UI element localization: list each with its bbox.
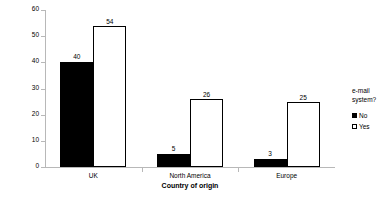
- y-tick-mark: [41, 141, 45, 142]
- legend-item[interactable]: No: [352, 111, 387, 120]
- y-tick-label: 50: [32, 31, 39, 38]
- y-tick: 10: [45, 141, 49, 142]
- bar-group: 325: [254, 10, 320, 167]
- bar-value-label: 25: [300, 94, 307, 101]
- bar-group: 526: [157, 10, 223, 167]
- y-tick-label: 20: [32, 110, 39, 117]
- y-tick-mark: [41, 36, 45, 37]
- x-axis-line: [45, 167, 335, 168]
- legend-item-label: Yes: [359, 122, 370, 131]
- y-tick: 50: [45, 36, 49, 37]
- y-tick-mark: [41, 10, 45, 11]
- bar-chart-figure: Number of respondents 0102030405060 4054…: [0, 0, 387, 199]
- y-tick-label: 0: [35, 162, 39, 169]
- legend-item-label: No: [359, 111, 367, 120]
- y-tick: 40: [45, 62, 49, 63]
- bar[interactable]: 5: [157, 154, 190, 167]
- y-tick-label: 60: [32, 5, 39, 12]
- bar-value-label: 3: [268, 150, 272, 157]
- bar[interactable]: 25: [287, 102, 320, 167]
- y-tick: 30: [45, 89, 49, 90]
- legend: e-mail system? NoYes: [352, 86, 387, 133]
- y-tick-mark: [41, 89, 45, 90]
- bar-value-label: 26: [203, 91, 210, 98]
- legend-swatch-icon: [352, 124, 357, 129]
- x-category-label: North America: [142, 172, 239, 179]
- y-tick-mark: [41, 167, 45, 168]
- x-category-label: UK: [45, 172, 142, 179]
- legend-item[interactable]: Yes: [352, 122, 387, 131]
- legend-title-line-2: system?: [352, 95, 387, 104]
- legend-title: e-mail system?: [352, 86, 387, 104]
- bar-value-label: 5: [172, 145, 176, 152]
- legend-items: NoYes: [352, 111, 387, 131]
- bar[interactable]: 3: [254, 159, 287, 167]
- bar[interactable]: 40: [60, 62, 93, 167]
- x-axis-title: Country of origin: [45, 182, 335, 189]
- y-tick: 60: [45, 10, 49, 11]
- y-tick-mark: [41, 115, 45, 116]
- y-tick: 0: [45, 167, 49, 168]
- x-category-label: Europe: [238, 172, 335, 179]
- y-tick-label: 30: [32, 84, 39, 91]
- y-tick: 20: [45, 115, 49, 116]
- plot-area: 0102030405060 4054526325 UKNorth America…: [45, 10, 335, 168]
- bar-value-label: 40: [73, 53, 80, 60]
- legend-title-line-1: e-mail: [352, 86, 387, 95]
- bar-value-label: 54: [106, 18, 113, 25]
- bar-group: 4054: [60, 10, 126, 167]
- bar[interactable]: 54: [93, 26, 126, 167]
- bar[interactable]: 26: [190, 99, 223, 167]
- y-tick-label: 10: [32, 136, 39, 143]
- legend-swatch-icon: [352, 113, 357, 118]
- y-tick-mark: [41, 62, 45, 63]
- y-tick-label: 40: [32, 57, 39, 64]
